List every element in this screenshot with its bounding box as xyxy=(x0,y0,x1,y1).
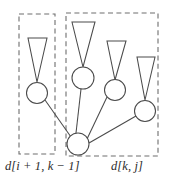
subtree-triangle-right-3 xyxy=(137,57,155,100)
figure-canvas: d[i + 1, k − 1] d[k, j] xyxy=(0,0,180,189)
edge-root-to-right-child-2 xyxy=(87,97,107,139)
edge-root-to-right-child-1 xyxy=(76,89,81,133)
caption-left-group: d[i + 1, k − 1] xyxy=(5,159,80,174)
subtree-triangle-right-1 xyxy=(72,22,95,67)
group-subtrees xyxy=(28,22,155,100)
node-right-child-3 xyxy=(135,101,156,122)
caption-right-group: d[k, j] xyxy=(111,159,143,174)
node-right-child-2 xyxy=(105,80,126,101)
edge-root-to-left-child xyxy=(45,100,71,137)
subtree-triangle-right-2 xyxy=(107,41,126,80)
node-right-child-1 xyxy=(72,67,94,89)
node-left-child xyxy=(27,83,48,104)
node-root xyxy=(67,133,89,155)
subtree-triangle-left xyxy=(28,38,47,82)
